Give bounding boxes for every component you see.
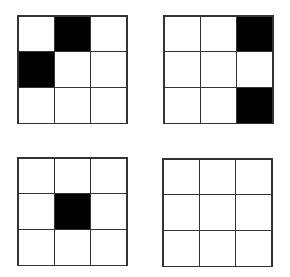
empty-cell bbox=[54, 87, 91, 124]
empty-cell bbox=[235, 194, 272, 231]
empty-cell bbox=[90, 193, 127, 230]
empty-cell bbox=[164, 16, 201, 53]
empty-cell bbox=[163, 230, 200, 267]
empty-cell bbox=[18, 193, 55, 230]
filled-cell bbox=[236, 16, 273, 53]
empty-cell bbox=[54, 51, 91, 88]
filled-cell bbox=[18, 51, 55, 88]
empty-cell bbox=[199, 194, 236, 231]
filled-cell bbox=[236, 87, 273, 124]
filled-cell bbox=[54, 16, 91, 53]
empty-cell bbox=[200, 87, 237, 124]
empty-cell bbox=[199, 230, 236, 267]
empty-cell bbox=[90, 16, 127, 53]
filled-cell bbox=[54, 193, 91, 230]
empty-cell bbox=[200, 16, 237, 53]
grid-top-left bbox=[17, 15, 128, 124]
empty-cell bbox=[163, 194, 200, 231]
empty-cell bbox=[236, 51, 273, 88]
empty-cell bbox=[18, 158, 55, 195]
grid-bottom-left bbox=[17, 157, 128, 266]
empty-cell bbox=[90, 51, 127, 88]
empty-cell bbox=[200, 51, 237, 88]
empty-cell bbox=[18, 229, 55, 266]
empty-cell bbox=[164, 87, 201, 124]
empty-cell bbox=[18, 16, 55, 53]
grid-top-right bbox=[163, 15, 274, 124]
empty-cell bbox=[235, 230, 272, 267]
grid-bottom-right bbox=[162, 158, 273, 267]
empty-cell bbox=[18, 87, 55, 124]
empty-cell bbox=[164, 51, 201, 88]
empty-cell bbox=[235, 159, 272, 196]
empty-cell bbox=[199, 159, 236, 196]
empty-cell bbox=[90, 158, 127, 195]
empty-cell bbox=[90, 229, 127, 266]
empty-cell bbox=[90, 87, 127, 124]
empty-cell bbox=[54, 229, 91, 266]
empty-cell bbox=[54, 158, 91, 195]
empty-cell bbox=[163, 159, 200, 196]
